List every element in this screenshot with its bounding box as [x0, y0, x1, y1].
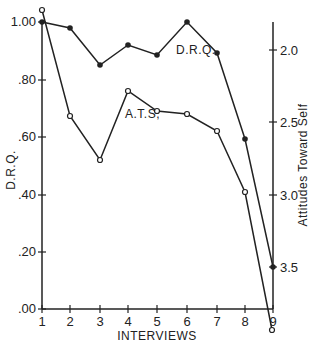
x-axis-title: INTERVIEWS: [117, 329, 196, 343]
tick-label: 1.00: [11, 14, 36, 29]
bottom-tick-labels: 1 2 3 4 5 6 7 8 9: [38, 314, 276, 329]
tick-label: 7: [213, 314, 220, 329]
tick-label: 1: [38, 314, 45, 329]
tick-label: 3: [96, 314, 103, 329]
y-axis-title: D.R.Q.: [4, 150, 18, 190]
tick-label: 8: [241, 314, 248, 329]
drq-series-line: [42, 22, 273, 267]
drq-series-label: D.R.Q.: [176, 43, 216, 57]
y-right-axis-title: Attitudes Toward Self: [296, 103, 310, 226]
tick-label: 3.5: [280, 260, 298, 275]
tick-label: .40: [18, 187, 36, 202]
tick-label: .80: [18, 72, 36, 87]
tick-label: 2.0: [280, 43, 298, 58]
ats-series-line: [42, 10, 272, 330]
tick-label: 4: [124, 314, 131, 329]
tick-label: .00: [18, 301, 36, 316]
ats-series-label: A.T.S,: [125, 107, 160, 121]
tick-label: .60: [18, 129, 36, 144]
tick-label: 6: [183, 314, 190, 329]
tick-label: .20: [18, 244, 36, 259]
tick-label: 5: [153, 314, 160, 329]
drq-series-markers: [39, 19, 276, 270]
tick-label: 2: [66, 314, 73, 329]
chart-canvas: .00 .20 .40 .60 .80 1.00 2.0 2.5 3.0 3.5…: [0, 0, 316, 344]
